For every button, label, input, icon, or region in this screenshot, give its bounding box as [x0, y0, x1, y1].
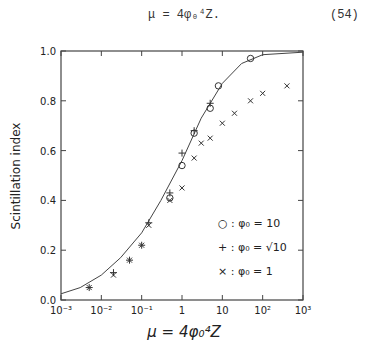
x-tick-label: 10³ — [295, 305, 312, 316]
cross-marker — [248, 98, 253, 103]
cross-marker — [208, 136, 213, 141]
y-tick-label: 0.6 — [40, 146, 56, 157]
theory-curve — [61, 52, 303, 294]
cross-marker — [284, 83, 289, 88]
y-tick-label: 0.2 — [40, 245, 56, 256]
x-tick-label: 1 — [179, 305, 185, 316]
x-tick-label: 10⁻¹ — [131, 305, 153, 316]
x-tick-label: 10² — [254, 305, 271, 316]
legend-item-phi-sqrt10: + : φ₀ = √10 — [218, 241, 287, 254]
y-tick-labels: 0.00.20.40.60.81.0 — [40, 46, 56, 306]
x-tick-label: 10 — [216, 305, 229, 316]
x-axis-title: μ = 4φ₀⁴Z — [146, 323, 221, 341]
cross-marker — [232, 111, 237, 116]
x-tick-label: 10⁻³ — [50, 305, 72, 316]
x-tick-label: 10⁻² — [90, 305, 112, 316]
cross-marker — [192, 156, 197, 161]
data-points — [86, 55, 290, 291]
y-tick-label: 0.4 — [40, 195, 56, 206]
scintillation-chart: 10⁻³10⁻²10⁻¹11010²10³ 0.00.20.40.60.81.0… — [0, 0, 383, 361]
y-tick-label: 1.0 — [40, 46, 56, 57]
legend: ○ : φ₀ = 10 + : φ₀ = √10 × : φ₀ = 1 — [218, 217, 287, 278]
y-axis-title: Scintillation index — [9, 123, 23, 230]
axis-ticks — [61, 51, 303, 300]
cross-marker — [220, 121, 225, 126]
plot-frame — [61, 51, 303, 300]
legend-item-phi-10: ○ : φ₀ = 10 — [218, 217, 280, 230]
cross-marker — [199, 141, 204, 146]
y-tick-label: 0.8 — [40, 96, 56, 107]
x-tick-labels: 10⁻³10⁻²10⁻¹11010²10³ — [50, 305, 311, 316]
cross-marker — [260, 91, 265, 96]
cross-marker — [180, 185, 185, 190]
y-tick-label: 0.0 — [40, 295, 56, 306]
legend-item-phi-1: × : φ₀ = 1 — [218, 265, 273, 278]
